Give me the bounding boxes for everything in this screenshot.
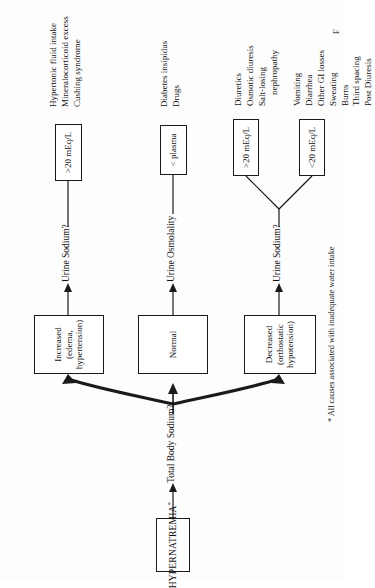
list-item: Vomiting — [292, 50, 304, 106]
list-item: nephropathy — [269, 45, 281, 106]
node-normal[interactable]: Normal — [138, 315, 208, 374]
box-increased-gt20-label: >20 mEq/L — [63, 132, 73, 173]
box-decreased-lt20[interactable]: <20 mEq/L — [299, 119, 325, 176]
list-item: Diabetes insipidus — [159, 41, 171, 107]
node-increased-line2: (edema, hypertension) — [64, 316, 85, 373]
list-normal-causes: Diabetes insipidus Drugs — [159, 41, 183, 107]
list-item: Post Diuresis — [363, 50, 375, 106]
node-decreased-line1: Decreased — [264, 316, 274, 373]
node-decreased-line2: (orthostatic hypotension) — [275, 316, 296, 373]
label-total-body-sodium: Total Body Sodium? — [166, 404, 177, 483]
box-decreased-gt20-label: >20 mEq/L — [241, 127, 251, 168]
box-increased-gt20[interactable]: >20 mEq/L — [55, 124, 82, 181]
list-item: Mineralocorticoid excess — [60, 16, 72, 107]
label-increased-urine-sodium: Urine Sodium? — [61, 224, 72, 282]
list-decreased-gt20-causes: Diuretics Osmotic diuresis Salt-losing n… — [233, 45, 281, 106]
node-normal-line1: Normal — [168, 331, 178, 359]
list-item: Sweating — [328, 50, 340, 106]
box-decreased-gt20[interactable]: >20 mEq/L — [233, 119, 259, 176]
list-item: Burns — [340, 50, 352, 106]
figure-caption-partial: F — [332, 29, 342, 34]
footnote-text: * All causes associated with inadequate … — [327, 246, 337, 422]
list-item: Osmotic diuresis — [245, 45, 257, 106]
list-item: Drugs — [171, 41, 183, 107]
list-item: Diarrhea — [304, 50, 316, 106]
box-normal-lt-plasma-label: < plasma — [168, 134, 178, 167]
node-increased-line1: Increased — [53, 316, 63, 373]
list-item: Hypertonic fluid intake — [48, 16, 60, 107]
node-hypernatremia[interactable]: HYPERNATREMIA* — [156, 518, 190, 572]
footnote-marker: * — [166, 502, 174, 506]
label-decreased-urine-sodium: Urine Sodium? — [272, 224, 283, 282]
list-item: Diuretics — [233, 45, 245, 106]
box-decreased-lt20-label: <20 mEq/L — [307, 127, 317, 168]
node-increased[interactable]: Increased (edema, hypertension) — [34, 315, 104, 374]
root-label: HYPERNATREMIA — [169, 505, 179, 588]
list-item: Third spacing — [351, 50, 363, 106]
list-item: Salt-losing — [257, 45, 269, 106]
label-urine-osmolality: Urine Osmolality — [166, 216, 177, 282]
list-item: Cushing syndrome — [72, 16, 84, 107]
list-decreased-lt20-causes: Vomiting Diarrhea Other GI losses Sweati… — [292, 50, 375, 106]
box-normal-lt-plasma[interactable]: < plasma — [160, 125, 187, 175]
list-increased-causes: Hypertonic fluid intake Mineralocorticoi… — [48, 16, 84, 107]
node-decreased[interactable]: Decreased (orthostatic hypotension) — [244, 315, 316, 374]
list-item: Other GI losses — [316, 50, 328, 106]
